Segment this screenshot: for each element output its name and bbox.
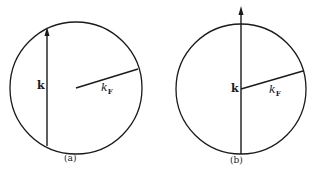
panel-a (10, 22, 142, 154)
caption-b: (b) (230, 155, 243, 165)
kf-symbol: k (269, 83, 276, 96)
arrowhead-icon (239, 6, 244, 15)
kf-symbol: k (101, 81, 108, 94)
k-label-a: k (37, 79, 45, 92)
fermi-sphere-diagram (0, 0, 314, 176)
kf-label-b: kF (269, 83, 281, 98)
kf-label-a: kF (101, 81, 113, 96)
kf-subscript: F (276, 89, 281, 98)
panel-b (176, 6, 306, 154)
caption-a: (a) (64, 153, 76, 163)
kf-subscript: F (108, 87, 113, 96)
k-label-b: k (231, 82, 239, 95)
